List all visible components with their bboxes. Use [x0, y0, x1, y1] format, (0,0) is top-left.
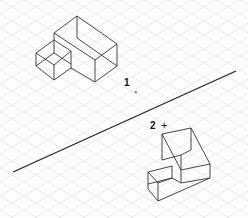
label-2: 2 [150, 120, 156, 131]
plus-marker: + [161, 119, 167, 131]
label-1: 1 [124, 77, 130, 88]
iso-grid [0, 0, 248, 218]
drawing: × + [0, 0, 248, 218]
isometric-canvas[interactable]: × + 1 2 [0, 0, 248, 218]
cursor-marker: × [134, 89, 138, 95]
